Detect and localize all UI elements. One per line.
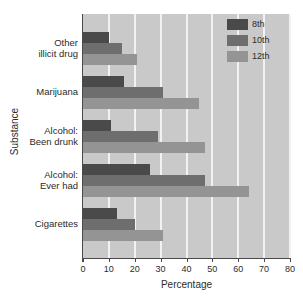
x-tick [187, 258, 188, 262]
bar-8th-2 [83, 120, 111, 131]
bar-8th-4 [83, 32, 109, 43]
y-axis-title: Substance [9, 87, 20, 177]
legend: 8th10th12th [227, 18, 289, 66]
legend-item: 10th [227, 34, 289, 49]
x-tick [264, 258, 265, 262]
bar-10th-2 [83, 131, 158, 142]
legend-item: 12th [227, 50, 289, 65]
x-tick [238, 258, 239, 262]
bar-8th-3 [83, 76, 124, 87]
bar-12th-2 [83, 142, 205, 153]
legend-label: 10th [252, 35, 270, 46]
legend-swatch [227, 19, 248, 30]
x-tick [135, 258, 136, 262]
bar-10th-3 [83, 87, 163, 98]
bar-12th-4 [83, 54, 137, 65]
bar-12th-1 [83, 186, 249, 197]
bar-chart: 01020304050607080 CigarettesAlcohol:Ever… [0, 0, 303, 303]
x-tick [290, 258, 291, 262]
x-tick-label: 20 [123, 264, 147, 274]
legend-item: 8th [227, 18, 289, 33]
x-tick-label: 30 [149, 264, 173, 274]
x-tick-label: 80 [278, 264, 302, 274]
bar-group [83, 76, 290, 109]
bar-10th-1 [83, 175, 205, 186]
bar-group [83, 120, 290, 153]
legend-swatch [227, 51, 248, 62]
category-label: Cigarettes [2, 218, 78, 230]
x-tick-label: 60 [226, 264, 250, 274]
bar-12th-0 [83, 230, 163, 241]
bar-8th-0 [83, 208, 117, 219]
y-axis-line [82, 14, 83, 262]
bar-group [83, 208, 290, 241]
x-tick [83, 258, 84, 262]
bar-8th-1 [83, 164, 150, 175]
x-tick-label: 10 [97, 264, 121, 274]
bar-10th-4 [83, 43, 122, 54]
bar-group [83, 164, 290, 197]
x-tick-label: 50 [200, 264, 224, 274]
legend-label: 12th [252, 51, 270, 62]
category-label-line: illicit drug [2, 48, 78, 60]
x-tick [212, 258, 213, 262]
x-tick-label: 40 [175, 264, 199, 274]
bar-12th-3 [83, 98, 199, 109]
legend-label: 8th [252, 19, 265, 30]
x-tick [109, 258, 110, 262]
category-label-line: Cigarettes [2, 218, 78, 230]
bar-10th-0 [83, 219, 135, 230]
category-label-line: Other [2, 37, 78, 49]
category-label: Otherillicit drug [2, 37, 78, 60]
x-tick [161, 258, 162, 262]
legend-swatch [227, 35, 248, 46]
x-axis-title: Percentage [83, 279, 290, 290]
category-label-line: Ever had [2, 180, 78, 192]
x-tick-label: 70 [252, 264, 276, 274]
